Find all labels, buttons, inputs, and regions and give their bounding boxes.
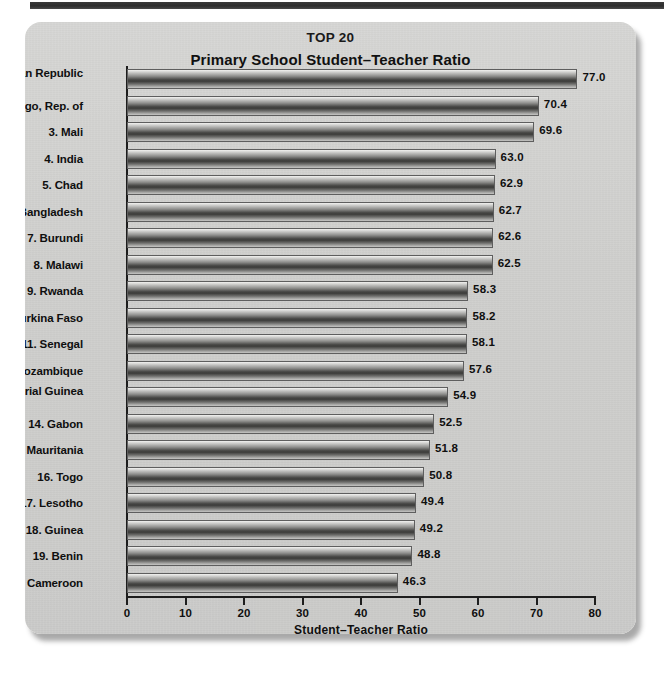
category-label: 17. Lesotho: [25, 497, 83, 510]
category-label: 7. Burundi: [25, 232, 83, 245]
bar-value-label: 57.6: [469, 363, 492, 375]
chart-title-block: TOP 20 Primary School Student–Teacher Ra…: [25, 30, 636, 69]
bar-row: 9. Rwanda58.3: [127, 278, 595, 305]
x-tick: [243, 598, 245, 605]
bar: [127, 493, 416, 513]
bar: [127, 573, 398, 593]
bar: [127, 334, 467, 354]
bar-row: 11. Senegal58.1: [127, 331, 595, 358]
category-label: 14. Gabon: [25, 418, 83, 431]
top-rule-divider: [30, 2, 664, 9]
bar-row: 16. Togo50.8: [127, 464, 595, 491]
category-label: 6. Bangladesh: [25, 206, 83, 219]
bar-value-label: 49.2: [420, 522, 443, 534]
x-tick-label: 30: [283, 607, 323, 619]
bar: [127, 255, 493, 275]
bar-value-label: 62.7: [499, 204, 522, 216]
x-axis-title: Student–Teacher Ratio: [126, 623, 596, 634]
chart-title: Primary School Student–Teacher Ratio: [25, 51, 636, 69]
bar-row: 13. Equatorial Guinea54.9: [127, 384, 595, 411]
bar-value-label: 46.3: [403, 575, 426, 587]
x-tick-label: 70: [517, 607, 557, 619]
category-label: 11. Senegal: [25, 338, 83, 351]
x-tick: [419, 598, 421, 605]
bar-row: 18. Guinea49.2: [127, 517, 595, 544]
category-label: 8. Malawi: [25, 259, 83, 272]
bar-row: 4. India63.0: [127, 146, 595, 173]
bar-value-label: 49.4: [421, 495, 444, 507]
bar: [127, 440, 430, 460]
bar-value-label: 52.5: [439, 416, 462, 428]
category-label: 15. Mauritania: [25, 444, 83, 457]
x-tick: [594, 598, 596, 605]
bar: [127, 122, 534, 142]
bar: [127, 69, 577, 89]
bar: [127, 520, 415, 540]
bar-value-label: 50.8: [429, 469, 452, 481]
bars-container: 1. Central African Republic77.02. Congo,…: [127, 66, 595, 596]
bar-row: 10. Burkina Faso58.2: [127, 305, 595, 332]
bar-row: 15. Mauritania51.8: [127, 437, 595, 464]
x-tick: [477, 598, 479, 605]
bar-value-label: 77.0: [582, 71, 605, 83]
x-tick: [360, 598, 362, 605]
bar-value-label: 62.6: [498, 230, 521, 242]
bar-value-label: 51.8: [435, 442, 458, 454]
bar: [127, 228, 493, 248]
bar: [127, 175, 495, 195]
x-tick-label: 60: [458, 607, 498, 619]
bar-value-label: 69.6: [539, 124, 562, 136]
bar: [127, 202, 494, 222]
bar: [127, 281, 468, 301]
x-tick: [302, 598, 304, 605]
bar: [127, 387, 448, 407]
category-label: 18. Guinea: [25, 524, 83, 537]
category-label: 3. Mali: [25, 126, 83, 139]
bar-row: 5. Chad62.9: [127, 172, 595, 199]
category-label: 10. Burkina Faso: [25, 312, 83, 325]
bar-row: 12. Mozambique57.6: [127, 358, 595, 385]
bar: [127, 149, 496, 169]
x-tick-label: 50: [400, 607, 440, 619]
category-label: 2. Congo, Rep. of: [25, 100, 83, 113]
x-tick-label: 20: [224, 607, 264, 619]
bar: [127, 96, 539, 116]
chart-panel: TOP 20 Primary School Student–Teacher Ra…: [25, 22, 636, 634]
category-label: 20. Cameroon: [25, 577, 83, 590]
category-label: 13. Equatorial Guinea: [25, 385, 83, 398]
category-label: 16. Togo: [25, 471, 83, 484]
x-tick-label: 40: [341, 607, 381, 619]
bar-value-label: 63.0: [501, 151, 524, 163]
bar-row: 19. Benin48.8: [127, 543, 595, 570]
bar-value-label: 62.5: [498, 257, 521, 269]
category-label: 5. Chad: [25, 179, 83, 192]
bar: [127, 361, 464, 381]
bar: [127, 546, 412, 566]
bar-row: 1. Central African Republic77.0: [127, 66, 595, 93]
bar-value-label: 48.8: [417, 548, 440, 560]
bar-row: 8. Malawi62.5: [127, 252, 595, 279]
bar-value-label: 58.2: [472, 310, 495, 322]
bar-row: 14. Gabon52.5: [127, 411, 595, 438]
bar-value-label: 54.9: [453, 389, 476, 401]
category-label: 12. Mozambique: [25, 365, 83, 378]
x-tick-label: 10: [166, 607, 206, 619]
bar-row: 20. Cameroon46.3: [127, 570, 595, 597]
category-label: 19. Benin: [25, 550, 83, 563]
bar-row: 2. Congo, Rep. of70.4: [127, 93, 595, 120]
bar-value-label: 70.4: [544, 98, 567, 110]
bar-row: 6. Bangladesh62.7: [127, 199, 595, 226]
bar-value-label: 58.1: [472, 336, 495, 348]
bar-value-label: 58.3: [473, 283, 496, 295]
x-tick: [185, 598, 187, 605]
x-tick: [126, 598, 128, 605]
bar-row: 17. Lesotho49.4: [127, 490, 595, 517]
x-tick-label: 80: [575, 607, 615, 619]
category-label: 4. India: [25, 153, 83, 166]
x-tick: [536, 598, 538, 605]
chart-suptitle: TOP 20: [25, 30, 636, 46]
bar-row: 7. Burundi62.6: [127, 225, 595, 252]
bar-value-label: 62.9: [500, 177, 523, 189]
category-label: 1. Central African Republic: [25, 67, 83, 80]
plot-region: 1. Central African Republic77.02. Congo,…: [25, 22, 636, 634]
